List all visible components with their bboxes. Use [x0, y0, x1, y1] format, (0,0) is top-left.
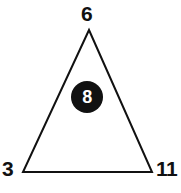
- interior-circle-token: 8: [71, 81, 103, 113]
- interior-circle-token-label: 8: [82, 88, 92, 106]
- vertex-label-bottom-right: 11: [156, 158, 177, 179]
- vertex-label-apex: 6: [81, 3, 92, 24]
- triangle-figure: 6 3 11 8: [0, 0, 181, 193]
- vertex-label-bottom-left: 3: [2, 158, 13, 179]
